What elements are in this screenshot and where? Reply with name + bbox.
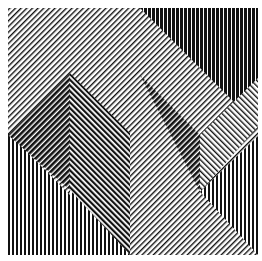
op-art-image	[0, 0, 262, 261]
